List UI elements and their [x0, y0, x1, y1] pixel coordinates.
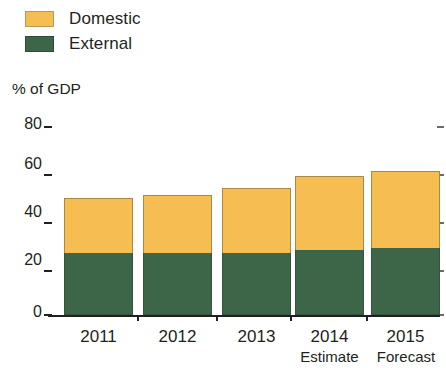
x-axis-sublabel-2014: Estimate	[289, 348, 370, 365]
chart-plot-area: 80 60 40 20 0 2011 2	[0, 0, 446, 368]
bar-2012[interactable]	[143, 195, 212, 315]
bar-segment-domestic-2011	[64, 198, 133, 253]
x-tick-mark-3	[290, 315, 292, 321]
bar-segment-domestic-2013	[222, 188, 291, 253]
y-tick-mark-80	[44, 126, 52, 128]
x-axis-label-2015: 2015	[371, 327, 440, 347]
bar-segment-domestic-2012	[143, 195, 212, 253]
x-tick-mark-2	[216, 315, 218, 321]
bar-2013[interactable]	[222, 188, 291, 315]
y-tick-label-60: 60	[8, 155, 42, 173]
y-tick-mark-40	[44, 222, 52, 224]
y-tick-label-0: 0	[8, 303, 42, 321]
bar-segment-domestic-2014	[295, 176, 364, 250]
bar-segment-external-2014	[295, 250, 364, 315]
x-axis-label-2012: 2012	[143, 327, 212, 347]
y-tick-mark-60	[44, 174, 52, 176]
bar-segment-domestic-2015	[371, 171, 440, 248]
bar-2015[interactable]	[371, 171, 440, 315]
x-tick-mark-1	[137, 315, 139, 321]
bar-segment-external-2013	[222, 253, 291, 315]
y-tick-mark-20	[44, 270, 52, 272]
y-tick-label-20: 20	[8, 251, 42, 269]
x-axis-label-2013: 2013	[222, 327, 291, 347]
bar-2014[interactable]	[295, 176, 364, 315]
bar-segment-external-2015	[371, 248, 440, 315]
x-tick-mark-4	[366, 315, 368, 321]
x-axis-label-2011: 2011	[64, 327, 133, 347]
x-axis-label-2014: 2014	[295, 327, 364, 347]
y-tick-label-80: 80	[8, 115, 42, 133]
bar-segment-external-2012	[143, 253, 212, 315]
x-axis-baseline	[48, 315, 440, 317]
y-tick-label-40: 40	[8, 203, 42, 221]
bar-segment-external-2011	[64, 253, 133, 315]
x-axis-sublabel-2015: Forecast	[366, 348, 446, 365]
bar-2011[interactable]	[64, 198, 133, 315]
y-tick-mark-right-80	[437, 126, 444, 128]
